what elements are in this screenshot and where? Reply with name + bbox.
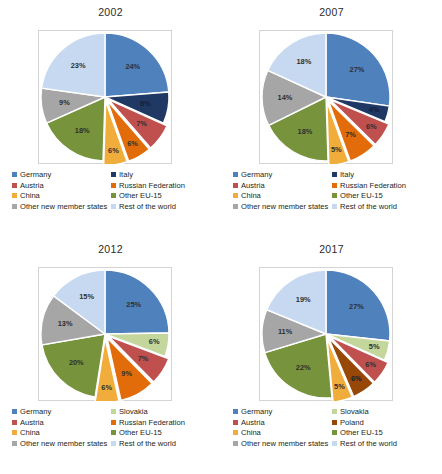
legend-swatch-icon bbox=[233, 204, 238, 209]
legend-swatch-icon bbox=[12, 420, 17, 425]
legend-swatch-icon bbox=[332, 409, 337, 414]
legend-item[interactable]: Rest of the world bbox=[111, 439, 210, 449]
legend-item[interactable]: Slovakia bbox=[332, 407, 431, 417]
slice-label: 18% bbox=[75, 126, 90, 135]
legend-swatch-icon bbox=[332, 441, 337, 446]
legend-2007: GermanyItalyAustriaRussian FederationChi… bbox=[233, 170, 431, 211]
slice-label: 23% bbox=[71, 61, 86, 70]
slice-label: 9% bbox=[121, 369, 132, 378]
legend-item[interactable]: Austria bbox=[12, 181, 111, 191]
legend-item[interactable]: Austria bbox=[12, 418, 111, 428]
legend-item[interactable]: Slovakia bbox=[111, 407, 210, 417]
legend-item-label: Other new member states bbox=[20, 202, 107, 212]
legend-item[interactable]: Austria bbox=[233, 181, 332, 191]
legend-item-label: Germany bbox=[20, 170, 51, 180]
legend-item[interactable]: Italy bbox=[111, 170, 210, 180]
slice-label: 7% bbox=[138, 354, 149, 363]
legend-item[interactable]: Rest of the world bbox=[332, 202, 431, 212]
legend-swatch-icon bbox=[111, 430, 116, 435]
legend-item-label: Germany bbox=[241, 170, 272, 180]
slice-label: 6% bbox=[366, 122, 377, 131]
legend-item-label: Austria bbox=[241, 418, 265, 428]
legend-swatch-icon bbox=[12, 441, 17, 446]
legend-swatch-icon bbox=[233, 409, 238, 414]
page-title-2007: 2007 bbox=[221, 6, 442, 18]
legend-item-label: Russian Federation bbox=[340, 181, 406, 191]
legend-item-label: Other EU-15 bbox=[119, 191, 162, 201]
slice-label: 6% bbox=[108, 146, 119, 155]
chart-panel-2002: 2002 24%8%7%6%6%18%9%23% GermanyItalyAus… bbox=[0, 0, 221, 237]
legend-item-label: Russian Federation bbox=[119, 418, 185, 428]
slice-label: 24% bbox=[125, 62, 140, 71]
legend-item[interactable]: Germany bbox=[233, 407, 332, 417]
legend-swatch-icon bbox=[332, 430, 337, 435]
legend-swatch-icon bbox=[233, 441, 238, 446]
legend-item-label: Other EU-15 bbox=[340, 191, 383, 201]
legend-swatch-icon bbox=[111, 204, 116, 209]
legend-item[interactable]: Other new member states bbox=[12, 202, 111, 212]
slice-label: 20% bbox=[69, 358, 84, 367]
legend-swatch-icon bbox=[111, 172, 116, 177]
slice-label: 5% bbox=[331, 145, 342, 154]
legend-item[interactable]: China bbox=[12, 191, 111, 201]
legend-item-label: Germany bbox=[20, 407, 51, 417]
slice-label: 15% bbox=[79, 292, 94, 301]
legend-item-label: Other new member states bbox=[241, 202, 328, 212]
slice-label: 8% bbox=[140, 99, 151, 108]
legend-item[interactable]: Italy bbox=[332, 170, 431, 180]
legend-item-label: Poland bbox=[340, 418, 364, 428]
slice-label: 7% bbox=[345, 130, 356, 139]
legend-swatch-icon bbox=[233, 420, 238, 425]
legend-item[interactable]: Other EU-15 bbox=[111, 428, 210, 438]
legend-item-label: Austria bbox=[20, 181, 44, 191]
legend-item-label: Germany bbox=[241, 407, 272, 417]
chart-panel-2007: 2007 27%4%6%7%5%18%14%18% GermanyItalyAu… bbox=[221, 0, 442, 237]
legend-swatch-icon bbox=[111, 441, 116, 446]
legend-item-label: Other new member states bbox=[20, 439, 107, 449]
pie-2012: 25%6%7%9%6%20%13%15% bbox=[38, 267, 172, 401]
legend-swatch-icon bbox=[332, 183, 337, 188]
legend-item[interactable]: Other EU-15 bbox=[111, 191, 210, 201]
legend-item[interactable]: China bbox=[233, 428, 332, 438]
slice-label: 7% bbox=[136, 119, 147, 128]
legend-item[interactable]: Germany bbox=[12, 407, 111, 417]
legend-item[interactable]: Russian Federation bbox=[111, 181, 210, 191]
legend-item[interactable]: Rest of the world bbox=[111, 202, 210, 212]
legend-item[interactable]: Austria bbox=[233, 418, 332, 428]
page-title-2002: 2002 bbox=[0, 6, 221, 18]
legend-item[interactable]: Russian Federation bbox=[332, 181, 431, 191]
legend-item[interactable]: Other EU-15 bbox=[332, 191, 431, 201]
legend-item[interactable]: Poland bbox=[332, 418, 431, 428]
legend-item[interactable]: Other new member states bbox=[233, 202, 332, 212]
legend-swatch-icon bbox=[233, 183, 238, 188]
page-title-2017: 2017 bbox=[221, 243, 442, 255]
legend-item-label: Austria bbox=[20, 418, 44, 428]
legend-swatch-icon bbox=[111, 409, 116, 414]
chart-panel-2017: 2017 27%5%6%6%5%22%11%19% GermanySlovaki… bbox=[221, 237, 442, 474]
legend-item-label: Rest of the world bbox=[340, 202, 397, 212]
legend-item[interactable]: Germany bbox=[233, 170, 332, 180]
slice-label: 6% bbox=[351, 374, 362, 383]
legend-item[interactable]: Germany bbox=[12, 170, 111, 180]
legend-item[interactable]: China bbox=[233, 191, 332, 201]
legend-swatch-icon bbox=[12, 204, 17, 209]
legend-swatch-icon bbox=[12, 193, 17, 198]
legend-item[interactable]: Other EU-15 bbox=[332, 428, 431, 438]
legend-item-label: Rest of the world bbox=[340, 439, 397, 449]
legend-item[interactable]: Other new member states bbox=[12, 439, 111, 449]
legend-item[interactable]: Russian Federation bbox=[111, 418, 210, 428]
pie-chart-grid: 2002 24%8%7%6%6%18%9%23% GermanyItalyAus… bbox=[0, 0, 442, 474]
legend-item[interactable]: Rest of the world bbox=[332, 439, 431, 449]
legend-item[interactable]: Other new member states bbox=[233, 439, 332, 449]
slice-label: 11% bbox=[278, 327, 293, 336]
pie-2017: 27%5%6%6%5%22%11%19% bbox=[259, 267, 393, 401]
legend-item-label: Russian Federation bbox=[119, 181, 185, 191]
legend-item[interactable]: China bbox=[12, 428, 111, 438]
legend-item-label: China bbox=[241, 191, 261, 201]
legend-swatch-icon bbox=[332, 193, 337, 198]
legend-item-label: Austria bbox=[241, 181, 265, 191]
legend-item-label: China bbox=[20, 428, 40, 438]
pie-2002: 24%8%7%6%6%18%9%23% bbox=[38, 30, 172, 164]
slice-label: 13% bbox=[58, 319, 73, 328]
slice-label: 4% bbox=[369, 105, 380, 114]
